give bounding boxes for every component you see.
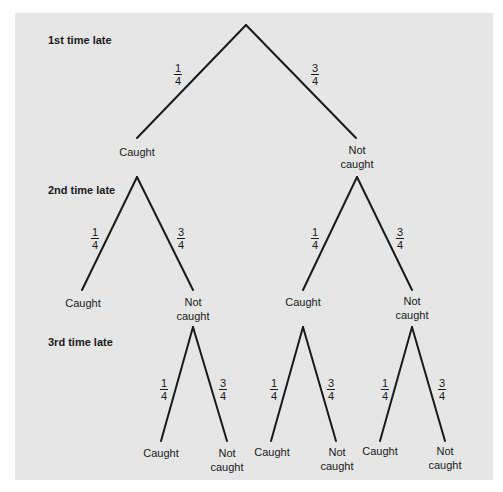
node-caught: Caught — [254, 445, 289, 459]
prob-caught: 14 — [174, 62, 182, 87]
prob-caught: 14 — [311, 226, 319, 251]
prob-caught: 14 — [270, 377, 278, 402]
node-not-caught: Notcaught — [395, 294, 428, 322]
prob-not-caught: 34 — [327, 377, 335, 402]
node-caught: Caught — [362, 444, 397, 458]
level-label-3: 3rd time late — [48, 336, 113, 348]
node-not-caught: Notcaught — [340, 143, 373, 171]
prob-not-caught: 34 — [396, 226, 404, 251]
prob-not-caught: 34 — [219, 377, 227, 402]
node-not-caught: Notcaught — [176, 295, 209, 323]
node-not-caught: Notcaught — [210, 446, 243, 474]
prob-not-caught: 34 — [311, 62, 319, 87]
node-caught: Caught — [119, 145, 154, 159]
tree-branches — [0, 0, 503, 492]
node-not-caught: Notcaught — [428, 444, 461, 472]
prob-caught: 14 — [160, 377, 168, 402]
prob-not-caught: 34 — [177, 226, 185, 251]
prob-caught: 14 — [91, 226, 99, 251]
node-caught: Caught — [65, 296, 100, 310]
node-caught: Caught — [285, 295, 320, 309]
node-not-caught: Notcaught — [320, 445, 353, 473]
level-label-2: 2nd time late — [48, 184, 115, 196]
prob-not-caught: 34 — [438, 377, 446, 402]
level-label-1: 1st time late — [48, 34, 112, 46]
node-caught: Caught — [143, 446, 178, 460]
prob-caught: 14 — [381, 377, 389, 402]
